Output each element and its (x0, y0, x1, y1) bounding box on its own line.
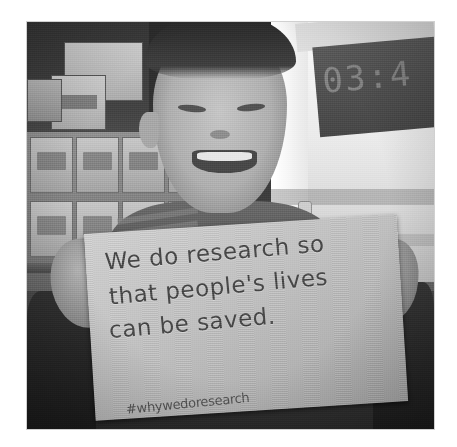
digital-display-panel: 03:4 (312, 37, 434, 137)
child-hair (145, 22, 296, 79)
storage-box (76, 137, 119, 193)
photograph: 03:4 We do research so that people's liv… (27, 22, 434, 429)
child-nose (210, 130, 230, 139)
page-canvas: 03:4 We do research so that people's liv… (0, 0, 457, 447)
child-mouth (192, 150, 257, 172)
storage-box (30, 137, 73, 193)
wall-poster-3 (27, 79, 62, 122)
child-teeth (197, 152, 252, 162)
display-digits: 03:4 (321, 54, 414, 102)
child-ear (139, 112, 159, 149)
handwritten-sign: We do research so that people's lives ca… (84, 214, 409, 421)
sign-text-block: We do research so that people's lives ca… (103, 224, 397, 344)
cabinet-seam-upper (271, 189, 434, 205)
